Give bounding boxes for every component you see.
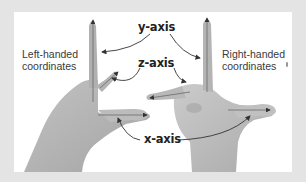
left-hand	[24, 20, 150, 172]
right-caption-line2: coordinates	[222, 60, 285, 72]
left-caption-line2: coordinates	[22, 60, 78, 72]
hands-illustration	[14, 12, 292, 172]
margin-speck	[286, 62, 288, 67]
y-axis-label: y-axis	[138, 20, 175, 34]
figure-panel: Left-handed coordinates Right-handed coo…	[14, 12, 292, 172]
x-axis-label: x-axis	[144, 132, 181, 146]
right-handed-caption: Right-handed coordinates	[222, 48, 285, 72]
left-handed-caption: Left-handed coordinates	[22, 48, 78, 72]
z-axis-label: z-axis	[138, 56, 174, 70]
right-hand	[146, 18, 276, 172]
left-caption-line1: Left-handed	[22, 48, 78, 60]
right-caption-line1: Right-handed	[222, 48, 285, 60]
figure-frame: Left-handed coordinates Right-handed coo…	[0, 0, 306, 182]
